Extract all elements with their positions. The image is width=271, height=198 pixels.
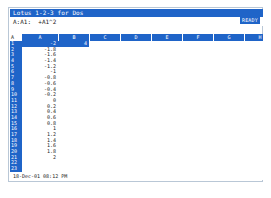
title-bar: Lotus 1-2-3 for Dos xyxy=(10,9,263,17)
column-header-d[interactable]: D xyxy=(121,34,151,41)
column-header-g[interactable]: G xyxy=(214,34,244,41)
column-header-f[interactable]: F xyxy=(183,34,213,41)
cell-column-a[interactable] xyxy=(22,166,58,172)
cell-reference-formula-line: A:A1: +A1^2 xyxy=(13,17,56,26)
column-header-e[interactable]: E xyxy=(152,34,182,41)
worksheet-row[interactable]: 23 xyxy=(10,166,263,172)
worksheet-corner-cell: A xyxy=(10,34,22,41)
column-header-c[interactable]: C xyxy=(90,34,120,41)
row-number-header[interactable]: 23 xyxy=(10,166,22,172)
column-header-b[interactable]: B xyxy=(59,34,89,41)
column-header-h[interactable]: H xyxy=(245,34,263,41)
window-title: Lotus 1-2-3 for Dos xyxy=(13,9,84,17)
application-window: Lotus 1-2-3 for Dos A:A1: +A1^2 READY A … xyxy=(8,7,263,182)
column-header-a[interactable]: A xyxy=(22,34,58,41)
cell-column-b[interactable] xyxy=(58,166,89,172)
worksheet-rows: 1-242-1.83-1.64-1.45-1.26-17-0.88-0.69-0… xyxy=(10,41,263,172)
worksheet-grid[interactable]: A A B C D E F G H 1-242-1.83-1.64-1.45-1… xyxy=(10,34,263,174)
lotus-123-application: Lotus 1-2-3 for Dos A:A1: +A1^2 READY A … xyxy=(0,0,271,198)
status-bar: 18-Dec-01 08:12 PM xyxy=(10,172,263,180)
mode-indicator: READY xyxy=(240,17,260,24)
status-datetime: 18-Dec-01 08:12 PM xyxy=(13,172,67,180)
cell-empty-region[interactable] xyxy=(89,166,263,172)
column-header-row: A A B C D E F G H xyxy=(10,34,263,41)
control-panel: A:A1: +A1^2 xyxy=(10,17,263,26)
